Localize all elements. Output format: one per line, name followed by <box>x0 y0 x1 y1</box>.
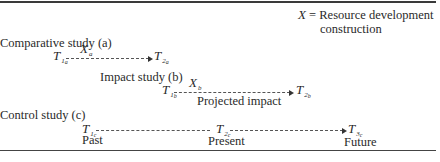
control-line-past-present <box>96 130 210 131</box>
impact-t1: T1b <box>162 82 177 99</box>
legend-line1: Resource development <box>319 8 433 22</box>
control-study-title: Control study (c) <box>0 108 85 123</box>
comparative-t2: T2a <box>154 48 169 65</box>
comparative-t1: T1a <box>53 48 68 65</box>
legend: X = Resource development <box>298 7 433 23</box>
top-rule <box>0 1 436 3</box>
label-future: Future <box>344 135 377 150</box>
label-present: Present <box>208 134 245 149</box>
legend-line2: construction <box>320 22 382 37</box>
impact-t2: T2b <box>296 82 311 99</box>
comparative-arrow <box>66 58 149 59</box>
legend-equals: = <box>309 8 316 22</box>
label-past: Past <box>82 133 103 148</box>
comparative-intervention: Xa <box>80 41 92 58</box>
legend-symbol: X <box>298 7 306 22</box>
bottom-rule <box>0 150 436 151</box>
impact-caption: Projected impact <box>197 94 281 109</box>
impact-arrow <box>174 92 290 93</box>
control-arrow-present-future <box>230 130 343 131</box>
impact-intervention: Xb <box>189 75 201 92</box>
